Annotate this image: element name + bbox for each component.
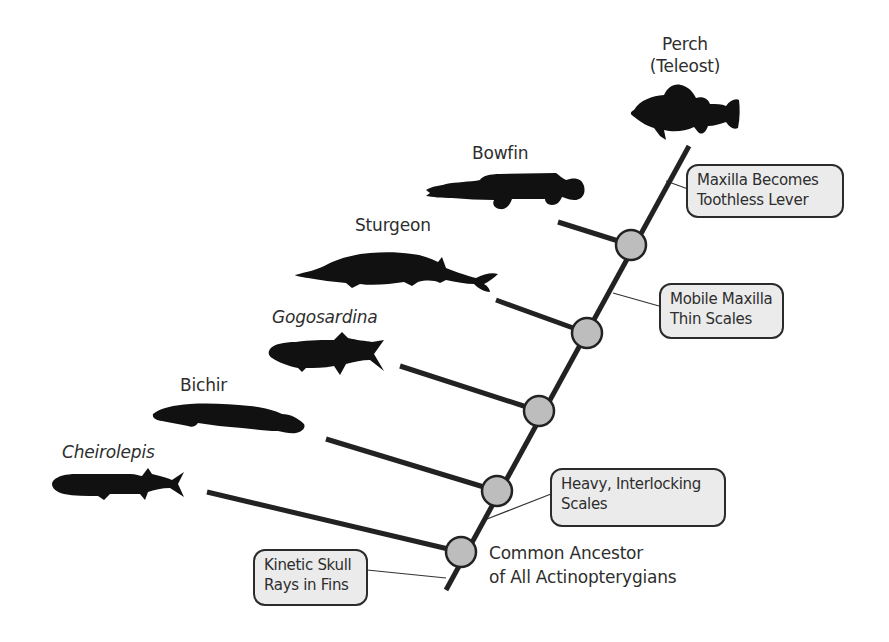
taxon-label-sturgeon: Sturgeon [355, 214, 431, 236]
node-4 [482, 476, 512, 506]
trait-line: Scales [561, 494, 715, 514]
bichir-silhouette-icon [153, 404, 305, 434]
perch-group: (Teleost) [640, 55, 730, 77]
trait-line: Thin Scales [670, 309, 773, 329]
taxon-label-gogosardina: Gogosardina [272, 306, 378, 328]
taxon-label-perch: Perch (Teleost) [640, 33, 730, 77]
connector-kinetic-skull [367, 570, 446, 578]
trait-line: Mobile Maxilla [670, 289, 773, 309]
perch-name: Perch [640, 33, 730, 55]
branch-cheirolepis [207, 492, 461, 552]
trait-box-toothless-lever: Maxilla Becomes Toothless Lever [686, 164, 844, 218]
perch-silhouette-icon [631, 84, 740, 140]
node-3 [524, 396, 554, 426]
taxon-label-cheirolepis: Cheirolepis [62, 441, 155, 463]
trait-line: Heavy, Interlocking [561, 474, 715, 494]
gogosardina-silhouette-icon [269, 332, 384, 375]
connector-mobile-maxilla [613, 293, 659, 306]
ancestor-line-2: of All Actinopterygians [489, 565, 676, 589]
taxon-label-bowfin: Bowfin [472, 142, 528, 164]
cladogram-diagram: Perch (Teleost) Bowfin Sturgeon Gogosard… [0, 0, 889, 642]
branch-gogosardina [400, 366, 539, 411]
trait-line: Rays in Fins [264, 575, 357, 595]
ancestor-line-1: Common Ancestor [489, 541, 676, 565]
trait-line: Kinetic Skull [264, 555, 357, 575]
trait-line: Toothless Lever [697, 190, 833, 210]
node-5-common-ancestor [446, 537, 476, 567]
trait-line: Maxilla Becomes [697, 170, 833, 190]
trait-box-kinetic-skull: Kinetic Skull Rays in Fins [253, 549, 368, 606]
taxon-label-bichir: Bichir [180, 374, 227, 396]
node-1 [616, 230, 646, 260]
trait-box-interlocking-scales: Heavy, Interlocking Scales [550, 468, 726, 527]
node-2 [572, 318, 602, 348]
common-ancestor-label: Common Ancestor of All Actinopterygians [489, 541, 676, 589]
trait-box-mobile-maxilla: Mobile Maxilla Thin Scales [659, 283, 784, 339]
branch-bichir [326, 439, 497, 491]
cheirolepis-silhouette-icon [52, 468, 184, 500]
sturgeon-silhouette-icon [295, 252, 498, 292]
bowfin-silhouette-icon [426, 173, 585, 209]
